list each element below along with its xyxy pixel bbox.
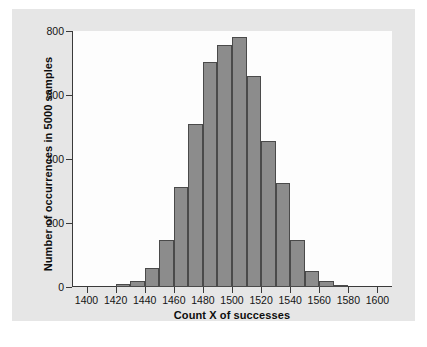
y-axis-tick-label: 0 (58, 282, 64, 293)
histogram-bar (116, 284, 131, 287)
histogram-bar (188, 124, 203, 287)
histogram-bars (72, 31, 392, 287)
x-axis-tick (87, 287, 88, 293)
x-axis-tick (203, 287, 204, 293)
y-axis-tick-label: 800 (46, 26, 64, 37)
x-axis-tick (377, 287, 378, 293)
histogram-bar (203, 62, 218, 287)
histogram-bar (305, 271, 320, 287)
y-axis-tick (66, 223, 72, 224)
y-axis-tick (66, 31, 72, 32)
x-axis-tick (232, 287, 233, 293)
histogram-bar (334, 285, 349, 287)
histogram-bar (217, 45, 232, 287)
x-axis-tick (116, 287, 117, 293)
histogram-bar (145, 268, 160, 287)
x-axis-tick (261, 287, 262, 293)
x-axis-tick (290, 287, 291, 293)
histogram-bar (130, 281, 145, 287)
histogram-bar (174, 187, 189, 287)
figure-caption-partial (3, 338, 123, 347)
histogram-bar (232, 37, 247, 287)
histogram-bar (290, 240, 305, 287)
y-axis-title: Number of occurrences in 5000 samples (42, 57, 54, 272)
y-axis-tick (66, 159, 72, 160)
x-axis-tick (319, 287, 320, 293)
histogram-bar (276, 183, 291, 287)
y-axis-tick (66, 287, 72, 288)
histogram-bar (319, 281, 334, 287)
histogram-bar (247, 76, 262, 287)
histogram-figure: 0200400600800140014201440146014801500152… (0, 0, 427, 347)
x-axis-tick (348, 287, 349, 293)
histogram-bar (159, 240, 174, 287)
y-axis-tick (66, 95, 72, 96)
x-axis-title: Count X of successes (72, 309, 392, 321)
x-axis-tick (145, 287, 146, 293)
histogram-bar (261, 141, 276, 287)
x-axis-tick-label: 1600 (357, 295, 397, 306)
x-axis-tick (174, 287, 175, 293)
